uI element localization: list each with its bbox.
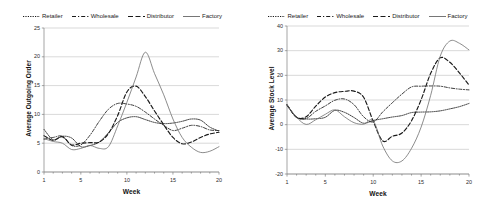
y-tick-label: 20 (24, 53, 40, 59)
y-axis-title-outgoing-order: Average Outgoing Order (25, 49, 32, 149)
x-tick-label: 15 (165, 177, 181, 183)
y-tick-label: 25 (24, 25, 40, 31)
figure-root: Retailer Wholesale Distributor Factory (0, 0, 491, 207)
y-tick-label: 0 (24, 169, 40, 175)
x-tick-label: 10 (365, 179, 381, 185)
y-tick-label: 10 (267, 97, 283, 103)
x-axis-title-stock-level: Week (338, 190, 418, 197)
x-tick-label: 10 (119, 177, 135, 183)
series-line-distributor (287, 57, 469, 141)
x-tick-label: 15 (413, 179, 429, 185)
y-tick-label: -20 (267, 171, 283, 177)
series-line-wholesale (44, 103, 219, 146)
y-tick-label: 5 (24, 140, 40, 146)
x-tick-label: 20 (461, 179, 477, 185)
y-tick-label: 0 (267, 121, 283, 127)
x-tick-label: 20 (211, 177, 227, 183)
y-tick-label: -10 (267, 146, 283, 152)
x-axis-title-outgoing-order: Week (92, 188, 172, 195)
y-tick-label: 30 (267, 47, 283, 53)
x-tick-label: 1 (36, 177, 52, 183)
chart-stock-level: Retailer Wholesale Distributor Factory (245, 0, 491, 207)
y-tick-label: 40 (267, 23, 283, 29)
x-tick-label: 1 (279, 179, 295, 185)
y-tick-label: 15 (24, 82, 40, 88)
x-tick-label: 5 (73, 177, 89, 183)
y-tick-label: 10 (24, 111, 40, 117)
series-line-wholesale (287, 86, 469, 122)
series-line-factory (287, 40, 469, 162)
series-line-distributor (44, 86, 219, 145)
series-line-retailer (44, 117, 219, 147)
x-tick-label: 5 (317, 179, 333, 185)
y-tick-label: 20 (267, 72, 283, 78)
chart-outgoing-order: Retailer Wholesale Distributor Factory (0, 0, 245, 207)
